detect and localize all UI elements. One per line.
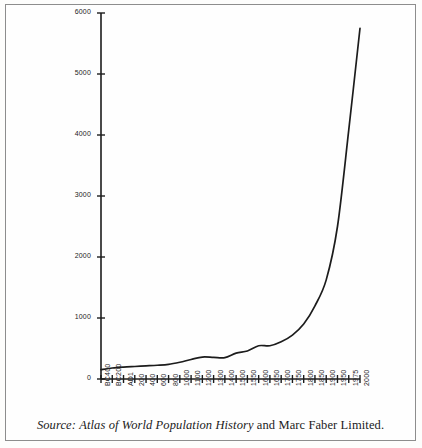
- y-axis-tick-label: 6000: [57, 8, 91, 15]
- x-axis-tick-label: 1950: [340, 370, 347, 386]
- caption-title: Atlas of World Population History: [79, 418, 253, 432]
- y-axis-tick-label: 3000: [57, 191, 91, 198]
- y-axis-tick-label: 2000: [57, 252, 91, 259]
- x-axis-tick-label: BC200: [115, 364, 122, 386]
- x-axis-tick-label: 800: [172, 374, 179, 386]
- x-axis-tick-label: 1300: [217, 370, 224, 386]
- population-curve: [101, 28, 360, 369]
- x-axis-tick-label: 1850: [318, 370, 325, 386]
- y-axis-tick-label: 5000: [57, 69, 91, 76]
- y-axis-tick-label: 1000: [57, 313, 91, 320]
- x-axis-tick-label: 1975: [352, 370, 359, 386]
- x-axis-tick-label: 400: [149, 374, 156, 386]
- source-caption: Source: Atlas of World Population Histor…: [5, 418, 416, 433]
- figure-container: 0100020003000400050006000 BC400BC200AD12…: [0, 0, 422, 448]
- y-axis-tick-label: 0: [57, 374, 91, 381]
- y-axis-tick-label: 4000: [57, 130, 91, 137]
- plot-area: 0100020003000400050006000 BC400BC200AD12…: [0, 0, 422, 400]
- x-axis-tick-label: 200: [138, 374, 145, 386]
- x-axis-tick-label: 1550: [250, 370, 257, 386]
- x-axis-tick-label: 1650: [273, 370, 280, 386]
- x-axis-tick-label: 1100: [194, 370, 201, 386]
- x-axis-tick-label: 1900: [329, 370, 336, 386]
- x-axis-tick-label: 2000: [363, 370, 370, 386]
- x-axis-tick-label: 1000: [183, 370, 190, 386]
- chart-axes: [101, 13, 360, 379]
- x-axis-tick-label: AD1: [127, 372, 134, 386]
- x-axis-tick-label: 1600: [262, 370, 269, 386]
- x-axis-tick-label: 1800: [307, 370, 314, 386]
- caption-source-label: Source:: [37, 418, 76, 432]
- x-axis-tick-label: 1500: [239, 370, 246, 386]
- x-axis-tick-label: BC400: [104, 364, 111, 386]
- x-axis-tick-label: 1200: [205, 370, 212, 386]
- population-line-chart: [0, 0, 422, 400]
- data-series-group: [101, 28, 360, 369]
- x-axis-tick-label: 1700: [284, 370, 291, 386]
- caption-tail: and Marc Faber Limited.: [257, 418, 384, 432]
- x-axis-tick-label: 600: [160, 374, 167, 386]
- x-axis-tick-label: 1750: [295, 370, 302, 386]
- x-axis-tick-label: 1400: [228, 370, 235, 386]
